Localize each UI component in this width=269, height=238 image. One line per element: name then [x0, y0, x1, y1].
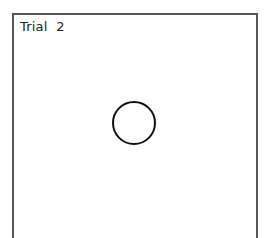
trial-panel: Trial 2 [12, 13, 258, 238]
circle-target-icon[interactable] [112, 101, 156, 145]
trial-label: Trial 2 [20, 19, 65, 34]
